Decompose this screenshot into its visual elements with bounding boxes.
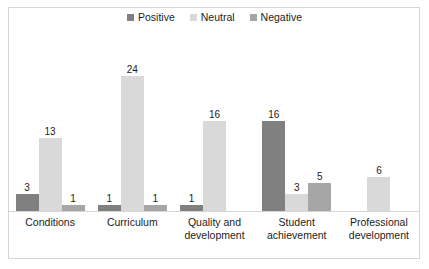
bar-chart: PositiveNeutralNegative 3131124111616356… [0,0,429,269]
bar-positive[interactable] [16,194,39,211]
bar-slot: 16 [203,38,226,211]
legend-item-negative[interactable]: Negative [250,12,302,23]
x-axis-category-labels: ConditionsCurriculumQuality and developm… [9,216,420,242]
bar-slot: 6 [367,38,390,211]
bar-slot: 3 [16,38,39,211]
bar-group: 3131 [9,38,91,211]
bar-slot: 24 [121,38,144,211]
category-label: Professional development [338,216,420,242]
bar-slot: 3 [285,38,308,211]
legend-swatch-icon [250,14,257,21]
bar-neutral[interactable] [367,177,390,211]
bar-slot: 13 [39,38,62,211]
legend-item-label: Negative [261,12,302,23]
bar-value-label: 5 [308,171,331,182]
legend-item-label: Neutral [201,12,235,23]
bar-slot: 1 [144,38,167,211]
bar-value-label: 24 [121,64,144,75]
bar-slot: 5 [308,38,331,211]
chart-legend: PositiveNeutralNegative [0,12,429,23]
category-label: Student achievement [256,216,338,242]
category-label: Conditions [9,216,91,229]
bar-slot [390,38,413,211]
bar-group: 1241 [91,38,173,211]
legend-item-neutral[interactable]: Neutral [190,12,235,23]
bar-value-label: 1 [144,193,167,204]
bar-group: 6 [338,38,420,211]
bar-neutral[interactable] [39,138,62,211]
bar-value-label: 6 [367,165,390,176]
bar-group: 116 [173,38,255,211]
bar-value-label: 1 [62,193,85,204]
legend-item-label: Positive [138,12,175,23]
x-axis-line [9,211,420,212]
bar-slot: 1 [62,38,85,211]
bar-slot [344,38,367,211]
bar-slot: 1 [180,38,203,211]
bar-value-label: 16 [203,109,226,120]
bar-value-label: 3 [285,182,308,193]
bar-value-label: 1 [180,193,203,204]
bar-neutral[interactable] [203,121,226,211]
bar-value-label: 16 [262,109,285,120]
plot-area: 3131124111616356 [9,38,420,211]
bar-positive[interactable] [262,121,285,211]
bar-slot: 1 [98,38,121,211]
bar-group: 1635 [256,38,338,211]
legend-item-positive[interactable]: Positive [127,12,175,23]
bar-slot: 16 [262,38,285,211]
legend-swatch-icon [127,14,134,21]
bar-value-label: 1 [98,193,121,204]
bar-neutral[interactable] [285,194,308,211]
bar-neutral[interactable] [121,76,144,211]
bar-negative[interactable] [308,183,331,211]
category-label: Curriculum [91,216,173,229]
legend-swatch-icon [190,14,197,21]
category-label: Quality and development [173,216,255,242]
bar-slot [226,38,249,211]
bar-value-label: 3 [16,182,39,193]
bar-value-label: 13 [39,126,62,137]
